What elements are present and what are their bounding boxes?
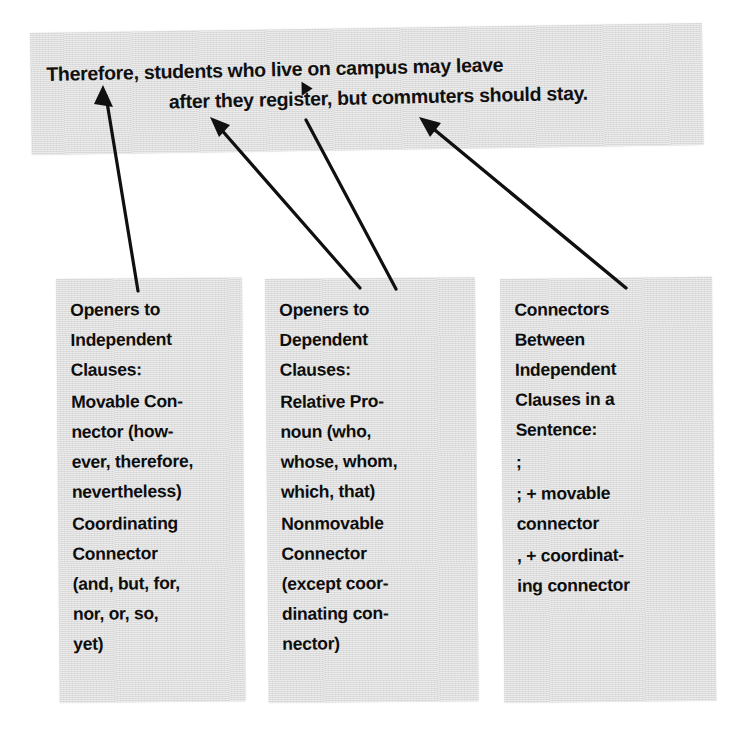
col1-b2-l2: (and, but, for, — [73, 567, 233, 598]
col3-b3-l1: ing connector — [517, 569, 703, 601]
col3-b3-l0: , + coordinat- — [517, 539, 703, 571]
column-1-block-movable-connector: Movable Con- nector (how- ever, therefor… — [71, 385, 232, 506]
col1-b0-l1: Independent — [70, 323, 230, 354]
col2-b2-l4: nector) — [282, 627, 466, 659]
column-2-block-nonmovable-connector: Nonmovable Connector (except coor- dinat… — [281, 507, 466, 659]
col2-b0-l1: Dependent — [279, 323, 463, 355]
col3-b0-l1: Between — [514, 323, 700, 355]
col1-b1-l0: Movable Con- — [71, 385, 231, 416]
col1-b0-l2: Clauses: — [71, 353, 231, 384]
col2-b2-l1: Connector — [281, 537, 465, 569]
worksheet-page: Therefore, students who live on campus m… — [0, 0, 744, 737]
column-3-block-comma-coordinating: , + coordinat- ing connector — [517, 539, 704, 601]
column-3-block-semicolon: ; — [516, 445, 702, 477]
col2-b0-l0: Openers to — [279, 293, 463, 325]
col2-b2-l2: (except coor- — [282, 567, 466, 599]
col2-b1-l2: whose, whom, — [280, 445, 464, 477]
column-connectors-between-independent: Connectors Between Independent Clauses i… — [500, 277, 716, 703]
col3-b0-l0: Connectors — [514, 293, 700, 325]
col3-b0-l4: Sentence: — [515, 413, 701, 445]
triangle-marker-icon — [302, 81, 313, 95]
col3-b1-l0: ; — [516, 445, 702, 477]
column-1-block-heading: Openers to Independent Clauses: — [70, 293, 231, 384]
col1-b2-l3: nor, or, so, — [73, 597, 233, 628]
column-3-block-semicolon-movable: ; + movable connector — [516, 477, 703, 539]
column-2-block-heading: Openers to Dependent Clauses: — [279, 293, 464, 385]
column-1-block-coordinating-connector: Coordinating Connector (and, but, for, n… — [72, 507, 233, 658]
col2-b1-l1: noun (who, — [280, 415, 464, 447]
col2-b0-l2: Clauses: — [280, 353, 464, 385]
col2-b1-l3: which, that) — [281, 475, 465, 507]
col1-b0-l0: Openers to — [70, 293, 230, 324]
col3-b2-l0: ; + movable — [516, 477, 702, 509]
column-3-block-heading: Connectors Between Independent Clauses i… — [514, 293, 702, 445]
col2-b1-l0: Relative Pro- — [280, 385, 464, 417]
col2-b2-l3: dinating con- — [282, 597, 466, 629]
col3-b0-l3: Clauses in a — [515, 383, 701, 415]
col1-b2-l4: yet) — [73, 627, 233, 658]
column-2-block-relative-pronoun: Relative Pro- noun (who, whose, whom, wh… — [280, 385, 465, 507]
col1-b1-l2: ever, therefore, — [71, 445, 231, 476]
col1-b1-l3: nevertheless) — [72, 475, 232, 506]
column-openers-independent: Openers to Independent Clauses: Movable … — [56, 277, 246, 703]
column-openers-dependent: Openers to Dependent Clauses: Relative P… — [265, 277, 479, 703]
col1-b2-l0: Coordinating — [72, 507, 232, 538]
col1-b2-l1: Connector — [72, 537, 232, 568]
col1-b1-l1: nector (how- — [71, 415, 231, 446]
col3-b2-l1: connector — [516, 507, 702, 539]
col2-b2-l0: Nonmovable — [281, 507, 465, 539]
col3-b0-l2: Independent — [515, 353, 701, 385]
